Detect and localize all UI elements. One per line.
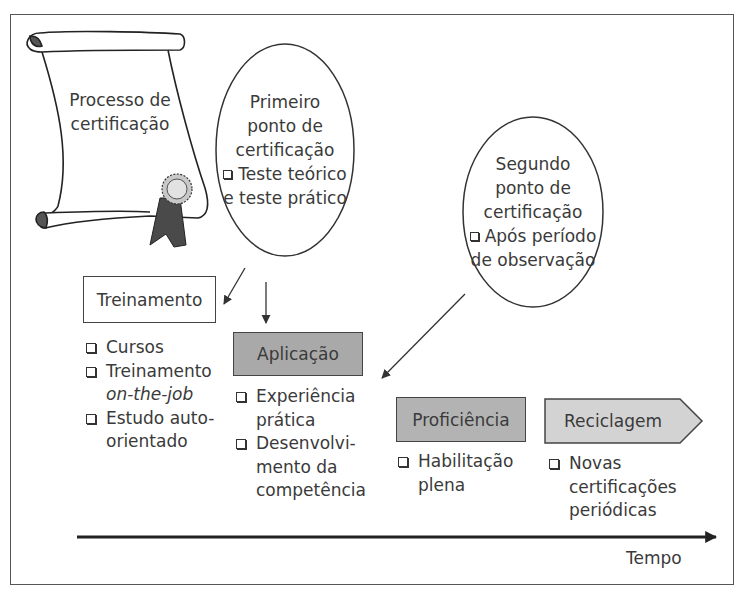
list-item-text: Novas — [569, 452, 677, 476]
list-item: Desenvolvi-mento dacompetência — [234, 432, 366, 503]
first-checkpoint-bullet-text: e teste prático — [216, 186, 354, 210]
checkbox-bullet-icon — [236, 439, 246, 449]
list-item-text: Estudo auto- — [106, 407, 214, 431]
list-item-text: plena — [418, 474, 513, 498]
checkbox-bullet-icon — [236, 392, 246, 402]
list-item-text: mento da — [256, 456, 366, 480]
list-item-text: Cursos — [106, 336, 214, 360]
first-checkpoint-title-line: ponto de — [216, 114, 354, 138]
timeline-label: Tempo — [626, 546, 682, 570]
list-item: Estudo auto-orientado — [84, 407, 214, 454]
second-checkpoint-title-line: Segundo — [463, 152, 603, 176]
checkbox-bullet-icon — [398, 457, 408, 467]
list-item-text: competência — [256, 479, 366, 503]
second-checkpoint-bullet: Após período — [463, 224, 603, 248]
stage-label: Proficiência — [412, 410, 509, 430]
list-item-text-italic: on-the-job — [106, 383, 214, 407]
checkbox-bullet-icon — [223, 170, 232, 179]
second-checkpoint-title-line: certificação — [463, 200, 603, 224]
checkbox-bullet-icon — [86, 414, 96, 424]
list-item: Novascertificaçõesperiódicas — [547, 452, 677, 523]
first-checkpoint-bullet: Teste teórico — [216, 162, 354, 186]
arrow-to-treinamento — [224, 268, 245, 304]
list-item: Treinamentoon-the-job — [84, 360, 214, 407]
stage-label: Aplicação — [257, 344, 339, 364]
list-item-text: orientado — [106, 430, 214, 454]
first-checkpoint-bullet-text: Teste teórico — [238, 164, 346, 184]
second-checkpoint-title-line: ponto de — [463, 176, 603, 200]
list-item-text: prática — [256, 409, 366, 433]
list-item-text: periódicas — [569, 499, 677, 523]
stage-box-reciclagem: Reciclagem — [545, 399, 681, 443]
list-item-text: certificações — [569, 476, 677, 500]
checkbox-bullet-icon — [86, 367, 96, 377]
list-item-text: Treinamento — [106, 360, 214, 384]
list-item-text: Desenvolvi- — [256, 432, 366, 456]
scroll-label-line: Processo de — [60, 88, 180, 112]
first-checkpoint-title: Primeiro ponto de certificação Teste teó… — [216, 90, 354, 210]
second-checkpoint-bullet-text: de observação — [463, 248, 603, 272]
aplicacao-list: Experiênciaprática Desenvolvi-mento daco… — [234, 385, 366, 503]
list-item-text: Habilitação — [418, 450, 513, 474]
stage-box-proficiencia: Proficiência — [396, 397, 526, 442]
stage-label: Treinamento — [97, 290, 203, 310]
list-item: Experiênciaprática — [234, 385, 366, 432]
list-item: Cursos — [84, 336, 214, 360]
checkbox-bullet-icon — [86, 343, 96, 353]
treinamento-list: Cursos Treinamentoon-the-job Estudo auto… — [84, 336, 214, 454]
arrow-to-proficiencia — [382, 294, 465, 378]
checkbox-bullet-icon — [549, 459, 559, 469]
scroll-label: Processo de certificação — [60, 88, 180, 136]
first-checkpoint-title-line: Primeiro — [216, 90, 354, 114]
second-checkpoint-bullet-text: Após período — [485, 226, 597, 246]
stage-box-treinamento: Treinamento — [83, 276, 216, 323]
list-item-text: Experiência — [256, 385, 366, 409]
stage-box-aplicacao: Aplicação — [233, 332, 363, 376]
scroll-label-line: certificação — [60, 112, 180, 136]
second-checkpoint-title: Segundo ponto de certificação Após perío… — [463, 152, 603, 272]
list-item: Habilitaçãoplena — [396, 450, 513, 497]
stage-label: Reciclagem — [564, 411, 662, 431]
first-checkpoint-title-line: certificação — [216, 138, 354, 162]
checkbox-bullet-icon — [470, 232, 479, 241]
proficiencia-list: Habilitaçãoplena — [396, 450, 513, 497]
reciclagem-list: Novascertificaçõesperiódicas — [547, 452, 677, 523]
